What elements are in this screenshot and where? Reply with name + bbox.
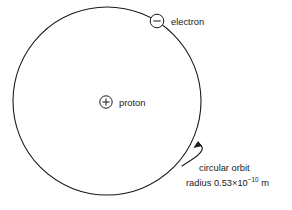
proton-symbol xyxy=(100,96,112,108)
annotation-arrowhead-icon xyxy=(194,142,201,148)
annotation-radius-exponent: −10 xyxy=(248,176,259,183)
atom-diagram: proton electron circular orbit radius 0.… xyxy=(0,0,292,210)
annotation-radius-suffix: m xyxy=(259,178,270,188)
annotation-line-1: circular orbit xyxy=(199,163,250,173)
electron-symbol xyxy=(150,14,164,28)
proton-label: proton xyxy=(119,98,145,108)
annotation-line-2: radius 0.53×10−10 m xyxy=(186,176,269,188)
electron-label: electron xyxy=(171,17,204,27)
diagram-canvas: proton electron circular orbit radius 0.… xyxy=(0,0,292,210)
annotation-radius-prefix: radius 0.53×10 xyxy=(186,178,248,188)
